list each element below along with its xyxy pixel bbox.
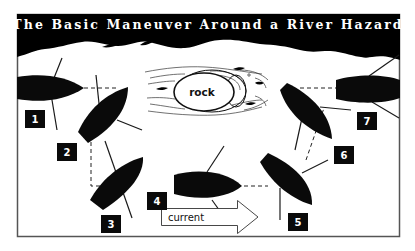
svg-text:1: 1 [32, 114, 39, 125]
position-label-5: 5 [288, 213, 308, 231]
position-label-7: 7 [357, 112, 377, 130]
svg-text:5: 5 [295, 217, 302, 228]
position-label-1: 1 [25, 110, 45, 128]
position-label-4: 4 [147, 192, 167, 210]
svg-text:4: 4 [154, 196, 161, 207]
svg-text:7: 7 [364, 116, 371, 127]
diagram-title: The Basic Maneuver Around a River Hazard [12, 17, 403, 32]
position-label-2: 2 [57, 143, 77, 161]
svg-text:2: 2 [64, 147, 71, 158]
svg-text:3: 3 [108, 219, 115, 230]
position-label-3: 3 [101, 215, 121, 233]
current-label: current [168, 212, 204, 223]
svg-text:6: 6 [341, 150, 348, 161]
river-hazard-diagram: The Basic Maneuver Around a River Hazard… [0, 0, 415, 251]
position-label-6: 6 [334, 146, 354, 164]
rock-label: rock [189, 86, 216, 98]
